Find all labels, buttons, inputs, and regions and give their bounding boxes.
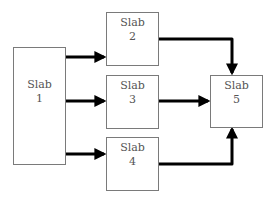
node-number: 3 [107, 93, 158, 107]
node-title: Slab [107, 79, 158, 93]
node-slab-1: Slab 1 [13, 47, 66, 165]
node-number: 1 [14, 92, 65, 106]
node-slab-2: Slab 2 [106, 12, 159, 66]
node-title: Slab [107, 16, 158, 30]
arrow-slab2-to-slab5 [158, 39, 232, 73]
node-number: 2 [107, 30, 158, 44]
node-title: Slab [107, 141, 158, 155]
node-number: 4 [107, 155, 158, 169]
node-slab-3: Slab 3 [106, 75, 159, 129]
node-title: Slab [211, 79, 262, 93]
node-slab-5: Slab 5 [210, 75, 263, 128]
flow-diagram: Slab 1 Slab 2 Slab 3 Slab 4 Slab 5 [0, 0, 274, 200]
node-slab-4: Slab 4 [106, 137, 159, 191]
node-title: Slab [14, 78, 65, 92]
arrow-slab4-to-slab5 [158, 129, 232, 164]
node-number: 5 [211, 93, 262, 107]
